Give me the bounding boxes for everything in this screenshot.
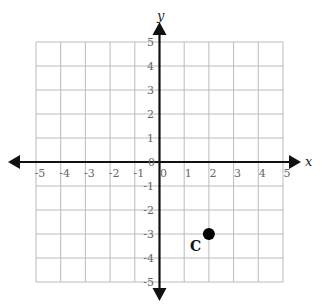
y-axis-down-arrow-icon — [153, 288, 167, 301]
y-tick-label: -4 — [143, 252, 154, 265]
coordinate-plane: x y -5-4-3-2-1012345 543210-1-2-3-4-5 C — [0, 0, 325, 307]
x-tick-label: -2 — [109, 167, 120, 180]
y-axis: y — [153, 8, 167, 301]
x-axis-right-arrow-icon — [289, 155, 301, 169]
y-tick-label: -3 — [143, 228, 154, 241]
x-tick-label: -4 — [59, 167, 70, 180]
y-tick-label: 0 — [148, 156, 155, 169]
x-tick-label: 0 — [160, 167, 167, 180]
x-tick-label: 1 — [185, 167, 192, 180]
point-label: C — [190, 238, 201, 254]
point-c — [203, 228, 215, 240]
y-tick-label: -2 — [143, 204, 154, 217]
data-points: C — [190, 228, 215, 254]
x-tick-label: 5 — [284, 167, 291, 180]
y-tick-label: -1 — [143, 180, 154, 193]
x-tick-label: -1 — [133, 167, 144, 180]
y-tick-label: -5 — [143, 276, 154, 289]
x-tick-label: 4 — [259, 167, 266, 180]
y-tick-label: 1 — [147, 132, 154, 145]
x-tick-labels: -5-4-3-2-1012345 — [35, 167, 291, 180]
x-tick-label: -5 — [35, 167, 46, 180]
y-tick-label: 2 — [147, 108, 154, 121]
x-tick-label: -3 — [84, 167, 95, 180]
y-tick-label: 4 — [147, 60, 154, 73]
y-axis-up-arrow-icon — [153, 22, 167, 35]
x-axis-label: x — [305, 154, 313, 169]
y-tick-label: 5 — [147, 36, 154, 49]
x-tick-label: 3 — [234, 167, 241, 180]
x-axis-left-arrow-icon — [8, 155, 20, 169]
y-axis-label: y — [156, 8, 165, 23]
x-tick-label: 2 — [209, 167, 216, 180]
y-tick-label: 3 — [147, 84, 154, 97]
